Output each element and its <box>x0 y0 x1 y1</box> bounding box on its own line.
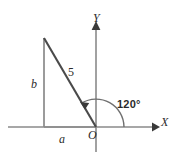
x-axis-arrowhead-icon <box>152 123 160 132</box>
geometry-figure: Y X O a b 5 120° <box>0 0 173 163</box>
hypotenuse-length-label: 5 <box>68 66 74 78</box>
angle-arc-arrowhead-icon <box>80 102 89 110</box>
y-axis-label: Y <box>93 12 100 24</box>
side-a-label: a <box>59 133 65 145</box>
angle-measure-label: 120° <box>117 99 141 110</box>
side-b-label: b <box>31 78 37 90</box>
triangle-hypotenuse <box>44 38 96 127</box>
x-axis-label: X <box>161 116 168 128</box>
origin-label: O <box>88 129 97 141</box>
figure-canvas <box>0 0 173 163</box>
